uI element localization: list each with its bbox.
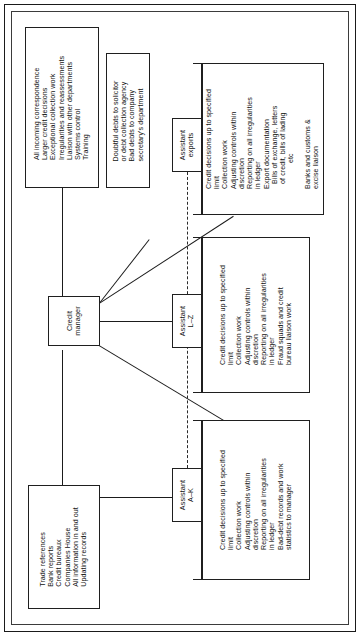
duty-line: or debt collection agency — [120, 80, 128, 161]
duty-list-exports: Credit decisions up to specified limit C… — [205, 89, 320, 189]
duty-line: Bills of exchange, letters — [271, 89, 279, 189]
node-label-line: exports — [187, 130, 195, 161]
duty-line: Adjusting controls within — [244, 265, 252, 365]
duty-line: Credit decisions up to specified — [205, 89, 213, 189]
duty-line: Collection work — [235, 265, 243, 365]
duty-line: Collection work — [222, 89, 230, 189]
connector-information-assistant-ak — [100, 497, 172, 498]
duty-line: Reporting on all irregularities — [260, 450, 268, 550]
duty-line-spacer — [296, 89, 304, 189]
duty-line: Credit decisions up to specified — [219, 265, 227, 365]
duty-box-exports: Credit decisions up to specified limit C… — [202, 63, 324, 215]
duty-box-lz: Credit decisions up to specified limit C… — [202, 237, 310, 393]
duty-box-manager: All incoming correspondence Larger credi… — [25, 27, 99, 188]
connector-manager-assistant-lz — [100, 321, 172, 322]
duty-line: Bad debts to company — [128, 80, 136, 161]
duty-line: Updating records — [80, 507, 88, 586]
duty-line: Credit bureaux — [56, 507, 64, 586]
duty-line: All information in and out — [72, 507, 80, 586]
duty-line: of credit, bills of lading — [279, 89, 287, 189]
duty-line: Adjusting controls within — [244, 450, 252, 550]
node-credit-manager[interactable]: Credit manager — [48, 296, 100, 346]
duty-line: Liaison with other departments — [66, 55, 74, 159]
duty-line: Larger credit decisions — [41, 55, 49, 159]
duty-list-lz: Credit decisions up to specified limit C… — [219, 265, 293, 365]
node-label-line: L–Z — [187, 306, 195, 337]
duty-line: Fraud squads and credit — [277, 265, 285, 365]
duty-line: Reporting on all irregularities — [260, 265, 268, 365]
duty-line: Bank reports — [48, 507, 56, 586]
duty-box-debt-escalation: Doubtful debts to solicitor or debt coll… — [106, 53, 150, 188]
duty-line: Trade references — [39, 507, 47, 586]
duty-list-debt-escalation: Doubtful debts to solicitor or debt coll… — [112, 80, 145, 161]
duty-line: Reporting on all irregularities — [247, 89, 255, 189]
duty-line: limit — [214, 89, 222, 189]
duty-line: statistics to manager — [285, 450, 293, 550]
duty-line: in ledger — [268, 450, 276, 550]
duty-box-ak: Credit decisions up to specified limit C… — [202, 420, 310, 580]
duty-line: Collection work — [235, 450, 243, 550]
duty-line: Bad-debt records and work — [277, 450, 285, 550]
duty-line: Export documentation — [263, 89, 271, 189]
duty-line: Training — [83, 55, 91, 159]
duty-line: Companies House — [64, 507, 72, 586]
node-label-line: A–K — [187, 480, 195, 511]
duty-list-ak: Credit decisions up to specified limit C… — [219, 450, 293, 550]
duty-line: excise liaison — [312, 89, 320, 189]
duty-line: Systems control — [74, 55, 82, 159]
duty-line: All incoming correspondence — [33, 55, 41, 159]
duty-line: in ledger — [255, 89, 263, 189]
node-assistant-exports[interactable]: Assistant exports — [172, 118, 202, 172]
duty-line: Adjusting controls within — [230, 89, 238, 189]
duty-line: discretion — [252, 450, 260, 550]
node-label-assistant-lz: Assistant L–Z — [179, 306, 196, 337]
duty-line: Exceptional collection work — [50, 55, 58, 159]
duty-line: limit — [227, 450, 235, 550]
duty-line: in ledger — [268, 265, 276, 365]
duty-line: Credit decisions up to specified — [219, 450, 227, 550]
duty-line: discretion — [252, 265, 260, 365]
node-assistant-lz[interactable]: Assistant L–Z — [172, 294, 202, 348]
duty-line: Irregularities and reassessments — [58, 55, 66, 159]
duty-line: Banks and customs & — [304, 89, 312, 189]
duty-line: secretary's department — [136, 80, 144, 161]
node-label-credit-manager: Credit manager — [66, 306, 83, 336]
duty-line: limit — [227, 265, 235, 365]
duty-box-information-sources: Trade references Bank reports Credit bur… — [28, 485, 100, 609]
node-label-assistant-exports: Assistant exports — [179, 130, 196, 161]
connector-manager-information — [62, 350, 63, 485]
duty-list-information-sources: Trade references Bank reports Credit bur… — [39, 507, 88, 586]
duty-line: Doubtful debts to solicitor — [112, 80, 120, 161]
connector-manager-duties — [62, 188, 63, 298]
duty-line: discretion — [238, 89, 246, 189]
duty-line: etc — [288, 89, 296, 189]
node-assistant-ak[interactable]: Assistant A–K — [172, 468, 202, 522]
duty-line: bureau liaison work — [285, 265, 293, 365]
node-label-assistant-ak: Assistant A–K — [179, 480, 196, 511]
node-label-line: manager — [74, 306, 82, 336]
duty-list-manager: All incoming correspondence Larger credi… — [33, 55, 91, 159]
diagram-canvas: All incoming correspondence Larger credi… — [0, 0, 360, 636]
